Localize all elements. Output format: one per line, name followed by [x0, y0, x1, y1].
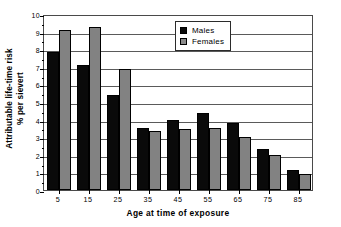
legend-label-females: Females: [192, 38, 224, 46]
x-axis-title: Age at time of exposure: [43, 208, 313, 218]
y-tick-mark-minor: [42, 25, 44, 26]
y-tick-mark: [40, 104, 44, 105]
x-tick-mark: [89, 190, 90, 194]
x-tick-mark: [239, 190, 240, 194]
y-tick-mark-minor: [42, 95, 44, 96]
y-tick-label: 2: [36, 152, 40, 159]
x-axis-tick-labels: 51525354555657585: [43, 196, 313, 208]
x-tick-mark: [119, 190, 120, 194]
bar-males-age-55: [197, 113, 208, 190]
x-tick-label: 85: [293, 196, 302, 204]
x-tick-label: 75: [263, 196, 272, 204]
y-tick-mark: [40, 69, 44, 70]
bar-males-age-85: [287, 170, 298, 190]
x-tick-label: 25: [113, 196, 122, 204]
bar-males-age-15: [77, 65, 88, 190]
x-tick-mark: [299, 190, 300, 194]
bar-males-age-45: [167, 120, 178, 190]
y-axis-title-line2: % per sievert: [15, 72, 24, 125]
y-tick-label: 3: [36, 135, 40, 142]
legend-item-females: Females: [180, 36, 224, 47]
bar-females-age-5: [59, 30, 70, 190]
y-tick-mark: [40, 157, 44, 158]
y-tick-mark: [40, 174, 44, 175]
legend-item-males: Males: [180, 25, 224, 36]
y-tick-mark-minor: [42, 148, 44, 149]
bar-females-age-55: [209, 128, 220, 190]
y-tick-mark: [40, 86, 44, 87]
y-tick-mark: [40, 51, 44, 52]
x-tick-label: 55: [203, 196, 212, 204]
y-tick-mark: [40, 16, 44, 17]
bar-females-age-65: [239, 137, 250, 190]
x-tick-label: 35: [143, 196, 152, 204]
y-axis-title: Attributable life-time risk % per siever…: [0, 0, 30, 196]
y-tick-mark-minor: [42, 166, 44, 167]
bar-females-age-35: [149, 131, 160, 190]
y-tick-label: 9: [36, 29, 40, 36]
legend-label-males: Males: [192, 27, 214, 35]
bar-chart-figure: Attributable life-time risk % per siever…: [0, 0, 341, 227]
y-tick-mark-minor: [42, 78, 44, 79]
x-tick-mark: [149, 190, 150, 194]
y-tick-label: 1: [36, 170, 40, 177]
y-tick-label: 4: [36, 117, 40, 124]
y-tick-label: 6: [36, 82, 40, 89]
y-tick-mark: [40, 34, 44, 35]
legend-swatch-females-icon: [180, 38, 187, 45]
x-tick-mark: [179, 190, 180, 194]
bar-females-age-45: [179, 129, 190, 190]
bar-females-age-75: [269, 155, 280, 190]
y-tick-label: 7: [36, 64, 40, 71]
x-tick-label: 45: [173, 196, 182, 204]
y-tick-label: 0: [36, 188, 40, 195]
y-tick-mark-minor: [42, 60, 44, 61]
bar-females-age-15: [89, 27, 100, 190]
bar-females-age-85: [299, 174, 310, 190]
bar-males-age-5: [47, 52, 58, 190]
y-tick-label: 5: [36, 100, 40, 107]
x-tick-mark: [269, 190, 270, 194]
y-tick-mark-minor: [42, 183, 44, 184]
y-axis-tick-labels: 012345678910: [28, 0, 41, 196]
x-tick-label: 65: [233, 196, 242, 204]
y-axis-title-line1: Attributable life-time risk: [5, 48, 14, 149]
legend-swatch-males-icon: [180, 27, 187, 34]
y-tick-mark: [40, 192, 44, 193]
y-tick-mark: [40, 122, 44, 123]
y-tick-label: 8: [36, 47, 40, 54]
y-tick-label: 10: [31, 12, 40, 19]
x-tick-label: 5: [56, 196, 61, 204]
legend: Males Females: [175, 21, 231, 51]
x-tick-mark: [59, 190, 60, 194]
y-tick-mark-minor: [42, 42, 44, 43]
y-tick-mark-minor: [42, 130, 44, 131]
y-tick-mark: [40, 139, 44, 140]
x-tick-mark: [209, 190, 210, 194]
bar-males-age-65: [227, 123, 238, 190]
bar-females-age-25: [119, 69, 130, 190]
bar-males-age-75: [257, 149, 268, 190]
bar-males-age-25: [107, 95, 118, 190]
y-tick-mark-minor: [42, 113, 44, 114]
x-tick-label: 15: [83, 196, 92, 204]
bar-males-age-35: [137, 128, 148, 190]
